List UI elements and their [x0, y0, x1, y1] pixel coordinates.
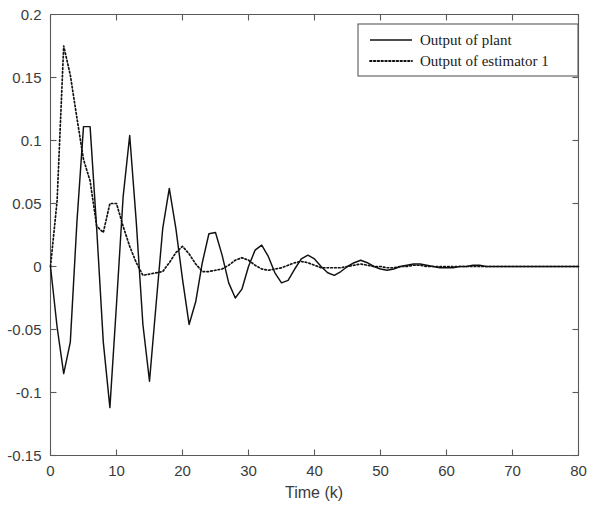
x-tick-label: 50 — [372, 462, 389, 479]
y-tick-label: 0.1 — [21, 132, 42, 149]
chart-figure: 01020304050607080 -0.15-0.1-0.0500.050.1… — [0, 0, 594, 508]
x-axis-title: Time (k) — [285, 484, 343, 501]
series-output-of-estimator-1 — [51, 46, 579, 275]
y-tick-label: 0 — [33, 258, 41, 275]
y-tick-label: -0.05 — [7, 321, 41, 338]
x-tick-label: 10 — [108, 462, 125, 479]
x-tick-label: 30 — [240, 462, 257, 479]
x-axis-tick-marks — [51, 15, 579, 456]
y-axis-tick-marks — [51, 15, 579, 456]
x-tick-label: 20 — [174, 462, 191, 479]
y-tick-label: 0.05 — [12, 195, 41, 212]
y-tick-label: 0.15 — [12, 69, 41, 86]
line-chart: 01020304050607080 -0.15-0.1-0.0500.050.1… — [0, 0, 594, 508]
legend-label-output-of-estimator-1: Output of estimator 1 — [420, 53, 549, 69]
x-tick-label: 80 — [570, 462, 587, 479]
x-tick-label: 70 — [504, 462, 521, 479]
y-tick-label: 0.2 — [21, 6, 42, 23]
y-axis-tick-labels: -0.15-0.1-0.0500.050.10.150.2 — [7, 6, 41, 464]
y-tick-label: -0.1 — [16, 384, 42, 401]
x-tick-label: 60 — [438, 462, 455, 479]
legend-label-output-of-plant: Output of plant — [420, 32, 512, 48]
x-axis-tick-labels: 01020304050607080 — [46, 462, 587, 479]
plot-area-frame — [51, 15, 579, 456]
x-tick-label: 0 — [46, 462, 54, 479]
x-tick-label: 40 — [306, 462, 323, 479]
y-tick-label: -0.15 — [7, 447, 41, 464]
chart-legend: Output of plant Output of estimator 1 — [358, 24, 578, 76]
series-output-of-plant — [51, 127, 579, 408]
axis-frame — [51, 15, 579, 456]
series-group — [51, 46, 579, 408]
